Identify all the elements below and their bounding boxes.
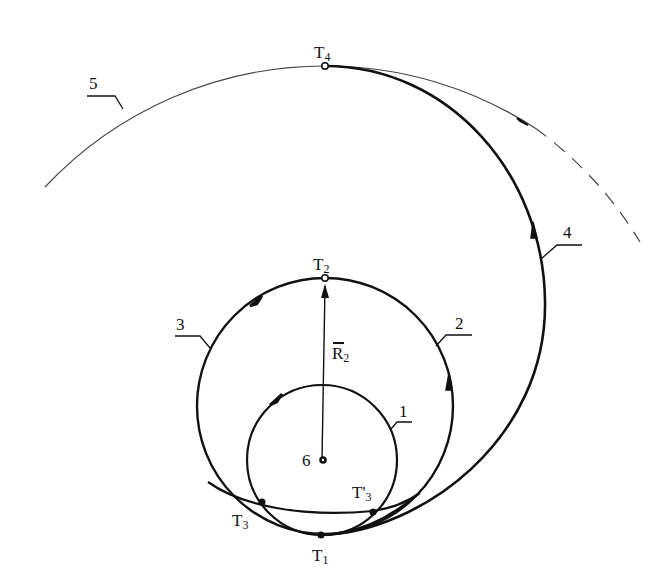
orbit-1-label: 1: [399, 403, 408, 420]
label-t4-sub: 4: [324, 50, 330, 64]
label-t3-left: T3: [232, 512, 248, 531]
orbit-1-arrow-icon: [270, 394, 282, 405]
leader-lines: [87, 96, 582, 429]
point-t3-right-marker: [370, 509, 377, 516]
vector-arrowhead-icon: [321, 284, 329, 298]
leader-3: [175, 336, 210, 348]
label-t3-left-main: T: [232, 511, 242, 530]
leader-4: [541, 245, 582, 259]
orbit-5-arrow-icon: [517, 118, 528, 125]
label-t1: T1: [312, 547, 328, 566]
label-vector-r2: R2: [332, 345, 349, 364]
orbit-2-label: 2: [455, 315, 464, 332]
label-t2-sub: 2: [323, 262, 329, 276]
point-t3-left-marker: [259, 499, 266, 506]
radius-vector-r2: [321, 284, 329, 460]
label-t4-main: T: [314, 43, 324, 62]
orbit-5: [45, 66, 640, 242]
label-t3-left-sub: 3: [242, 518, 248, 532]
orbit-diagram: [0, 0, 666, 588]
orbit-4-label: 4: [563, 224, 572, 241]
leader-5: [87, 96, 123, 109]
orbit-5-label: 5: [89, 75, 98, 92]
label-t3-right: T'3: [352, 484, 371, 503]
overbar: [333, 342, 344, 344]
label-center-6: 6: [302, 452, 311, 469]
orbit-3-label: 3: [176, 316, 185, 333]
label-t3-right-sub: 3: [365, 490, 371, 504]
label-t2-main: T: [313, 255, 323, 274]
orbit-2-arrow-icon: [446, 373, 452, 390]
label-t1-main: T: [312, 546, 322, 565]
label-vector-main: R: [332, 344, 343, 363]
label-t3-right-main: T': [352, 483, 365, 502]
leader-1: [391, 422, 412, 429]
label-t4: T4: [314, 44, 330, 63]
label-t2: T2: [313, 256, 329, 275]
point-t1-marker: [318, 532, 325, 539]
label-vector-sub: 2: [343, 351, 349, 365]
leader-2: [436, 335, 472, 346]
label-t1-sub: 1: [322, 553, 328, 567]
orbit-4: [321, 66, 545, 535]
center-6-inner: [322, 459, 324, 461]
